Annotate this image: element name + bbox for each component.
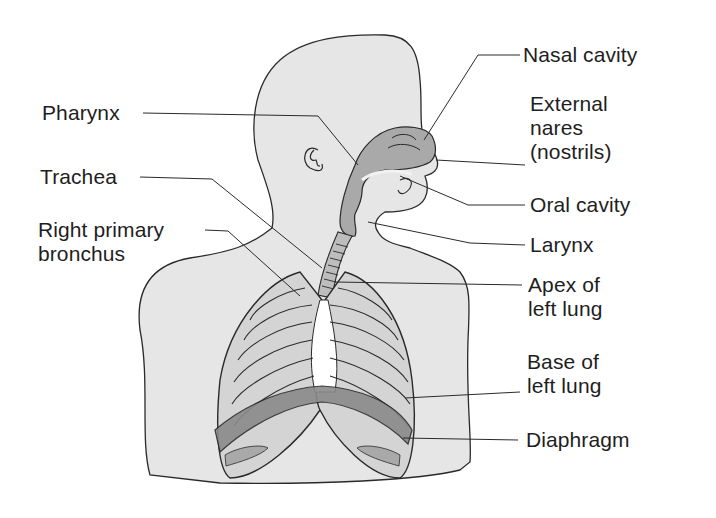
- label-larynx: Larynx: [530, 233, 594, 257]
- label-external-nares: External nares (nostrils): [530, 92, 612, 164]
- label-diaphragm: Diaphragm: [526, 428, 630, 452]
- label-right-primary-bronchus: Right primary bronchus: [38, 218, 164, 266]
- respiratory-diagram: Pharynx Trachea Right primary bronchus N…: [0, 0, 716, 518]
- leader-larynx: [368, 222, 525, 245]
- label-pharynx: Pharynx: [42, 101, 120, 125]
- label-base-left-lung: Base of left lung: [527, 350, 601, 398]
- leader-nasal-cavity: [424, 55, 520, 140]
- label-oral-cavity: Oral cavity: [530, 193, 630, 217]
- label-nasal-cavity: Nasal cavity: [523, 43, 637, 67]
- label-trachea: Trachea: [40, 165, 117, 189]
- leader-external-nares: [436, 160, 525, 165]
- label-apex-left-lung: Apex of left lung: [528, 273, 602, 321]
